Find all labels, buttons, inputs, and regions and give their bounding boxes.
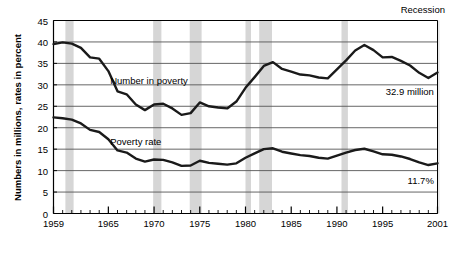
recession-band xyxy=(246,21,251,214)
recession-band xyxy=(65,21,73,214)
poverty-chart-figure: Numbers in millions, rates in percent Re… xyxy=(0,0,452,256)
series-label-poverty-rate: Poverty rate xyxy=(110,136,161,147)
end-value-poverty-rate: 11.7% xyxy=(408,175,434,186)
x-tick-marks-group xyxy=(54,207,438,214)
recession-band xyxy=(259,21,272,214)
chart-plot-area xyxy=(0,0,452,256)
recession-band xyxy=(153,21,161,214)
recession-bands-group xyxy=(65,21,439,214)
recession-band xyxy=(438,21,439,214)
series-label-number-in-poverty: Number in poverty xyxy=(110,75,188,86)
recession-band xyxy=(190,21,202,214)
end-value-number-in-poverty: 32.9 million xyxy=(386,86,434,97)
recession-band xyxy=(342,21,348,214)
